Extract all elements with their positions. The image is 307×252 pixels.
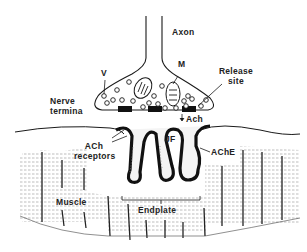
label-ache: AChE: [211, 147, 235, 157]
label-release-line2: site: [216, 76, 256, 86]
label-ach: Ach: [186, 114, 203, 124]
label-receptors-line1: ACh: [74, 141, 114, 151]
muscle-surface-left: [15, 127, 124, 134]
label-endplate: Endplate: [138, 205, 176, 215]
neuromuscular-junction-diagram: Axon V M Release site Nerve termina Ach …: [0, 0, 307, 252]
label-receptors-line2: receptors: [74, 151, 114, 161]
label-nerve-line2: termina: [50, 106, 83, 116]
label-nerve-line1: Nerve: [50, 96, 83, 106]
label-nerve-terminal: Nerve termina: [50, 96, 83, 116]
label-axon: Axon: [172, 27, 194, 37]
label-ach-receptors: ACh receptors: [74, 141, 114, 161]
label-junctional-folds: JF: [165, 134, 176, 144]
muscle-surface-right: [200, 126, 300, 135]
junctional-folds: [116, 126, 210, 182]
label-release-line1: Release: [216, 66, 256, 76]
label-release-site: Release site: [216, 66, 256, 86]
label-mitochondrion: M: [178, 59, 185, 69]
label-muscle: Muscle: [56, 197, 87, 207]
label-vesicle: V: [101, 68, 107, 78]
